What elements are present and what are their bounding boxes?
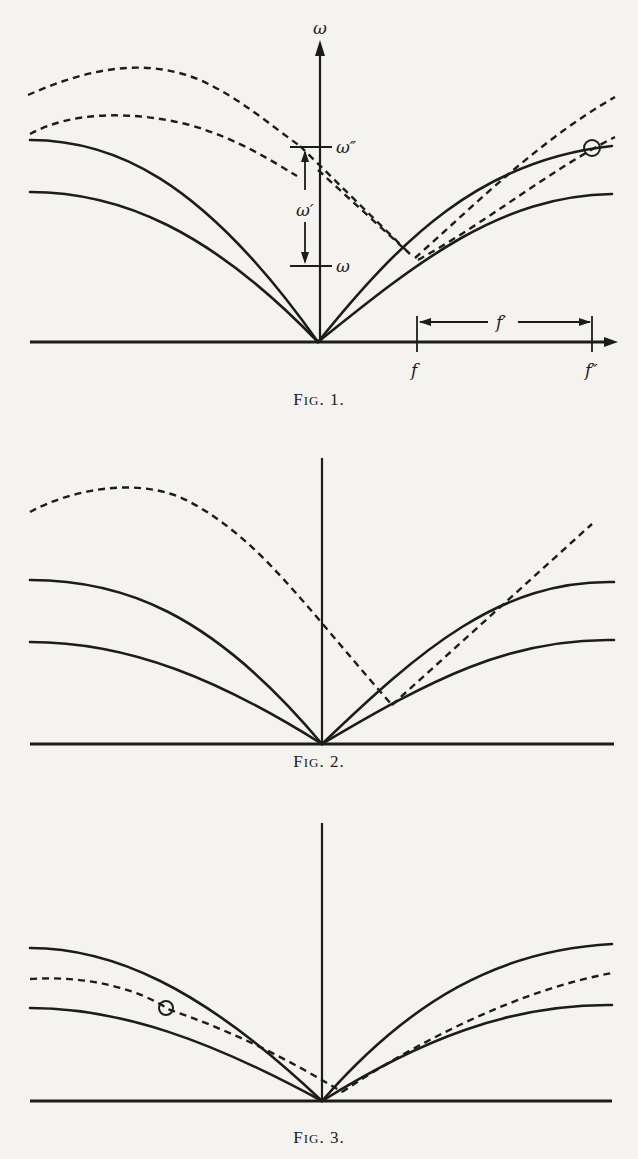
solid-curve-lower-right: [322, 1005, 612, 1101]
solid-curve-lower-left: [30, 1008, 322, 1101]
dashed-curve-right: [342, 973, 612, 1092]
caption-prefix: F: [293, 1128, 303, 1147]
figure-3-caption: FIG. 3.: [0, 1128, 638, 1148]
intersection-circle-marker: [159, 1001, 173, 1015]
caption-smallcaps: IG: [304, 1131, 320, 1146]
caption-number: . 3.: [319, 1128, 344, 1147]
figure-3-diagram: [0, 0, 638, 1159]
